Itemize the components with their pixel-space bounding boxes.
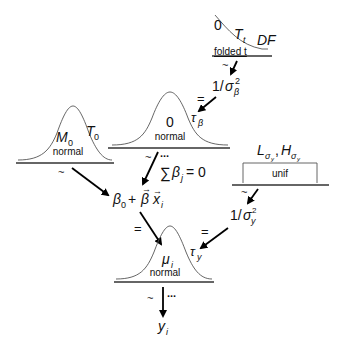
tau-y-symbol: τ bbox=[190, 244, 196, 259]
sigma-y-sup: 2 bbox=[252, 206, 257, 215]
sigma-beta-sub: β bbox=[233, 87, 239, 97]
linear-predictor: β 0 + β → x → i = bbox=[112, 184, 164, 236]
likelihood-normal-distribution: μ i normal τ y ~ ... bbox=[114, 226, 214, 304]
vector-arrow-beta: → bbox=[142, 184, 151, 194]
sum-beta: β bbox=[171, 164, 180, 180]
tau-y-sub: y bbox=[196, 252, 202, 262]
outcome-y-sub: i bbox=[166, 327, 169, 337]
inv-sigma-y-squared: 1/ σ y 2 bbox=[230, 206, 257, 226]
sum-eq-zero: = 0 bbox=[186, 164, 206, 180]
sigma-beta-sup: 2 bbox=[235, 76, 240, 86]
inv-sigma-beta-num: 1/ bbox=[212, 78, 224, 94]
linpred-beta0: β bbox=[112, 191, 121, 207]
inv-sigma-y-num: 1/ bbox=[230, 207, 242, 223]
sigma-y-sub: y bbox=[250, 216, 256, 226]
folded-t-distribution: 0 T t DF folded t ~ bbox=[212, 15, 277, 71]
beta0-tilde: ~ bbox=[58, 166, 64, 178]
arrow-foldedt-to-invsigmabeta bbox=[231, 61, 237, 74]
folded-t-df: DF bbox=[257, 32, 277, 48]
beta-dist-label: normal bbox=[155, 131, 186, 142]
beta0-mean: M bbox=[56, 129, 68, 145]
likelihood-ellipsis: ... bbox=[167, 287, 176, 299]
folded-t-location: 0 bbox=[214, 17, 222, 33]
linpred-plus: + bbox=[128, 191, 136, 207]
vector-arrow-x: → bbox=[153, 186, 162, 196]
hierarchical-model-diagram: 0 T t DF folded t ~ 1/ σ β 2 = 0 normal … bbox=[0, 0, 343, 351]
likelihood-dist-label: normal bbox=[150, 267, 181, 278]
sum-symbol: ∑ bbox=[160, 164, 171, 182]
equals-tau-beta: = bbox=[197, 91, 205, 106]
sigma-beta-symbol: σ bbox=[225, 78, 234, 94]
unif-high-subsub: y bbox=[296, 156, 301, 162]
arrow-linpred-to-mu bbox=[140, 212, 161, 244]
unif-sep: , bbox=[275, 142, 279, 158]
beta0-sd-sub: 0 bbox=[94, 132, 99, 142]
beta-ellipsis: ... bbox=[160, 147, 169, 159]
uniform-distribution: L σ y , H σ y unif ~ bbox=[232, 142, 329, 198]
unif-dist-label: unif bbox=[272, 168, 288, 179]
beta-normal-distribution: 0 normal τ β ~ ... ∑ β j = 0 bbox=[108, 92, 230, 183]
linpred-equals: = bbox=[134, 221, 142, 236]
unif-tilde: ~ bbox=[241, 186, 247, 198]
tau-beta-sub: β bbox=[197, 118, 203, 128]
beta0-dist-label: normal bbox=[53, 146, 84, 157]
folded-t-label: folded t bbox=[214, 46, 247, 57]
outcome-y-symbol: y bbox=[157, 318, 166, 334]
arrow-beta0-to-linpred bbox=[72, 168, 108, 195]
inv-sigma-beta-squared: 1/ σ β 2 bbox=[212, 76, 240, 97]
beta0-normal-distribution: M 0 normal T 0 ~ bbox=[16, 106, 114, 178]
beta-mean: 0 bbox=[166, 114, 174, 130]
arrow-unif-to-invsigmay bbox=[248, 189, 258, 203]
beta-tilde: ~ bbox=[145, 151, 151, 163]
outcome-y: y i bbox=[157, 318, 169, 337]
linpred-x-sub: i bbox=[161, 200, 164, 210]
likelihood-mean: μ bbox=[161, 251, 170, 267]
equals-tau-y: = bbox=[201, 224, 209, 239]
linpred-beta0-sub: 0 bbox=[121, 200, 126, 210]
likelihood-tilde: ~ bbox=[147, 292, 153, 304]
tau-beta-symbol: τ bbox=[191, 110, 197, 125]
sum-beta-sub: j bbox=[180, 173, 184, 183]
folded-t-tilde: ~ bbox=[222, 59, 228, 71]
unif-low: L bbox=[257, 142, 265, 158]
